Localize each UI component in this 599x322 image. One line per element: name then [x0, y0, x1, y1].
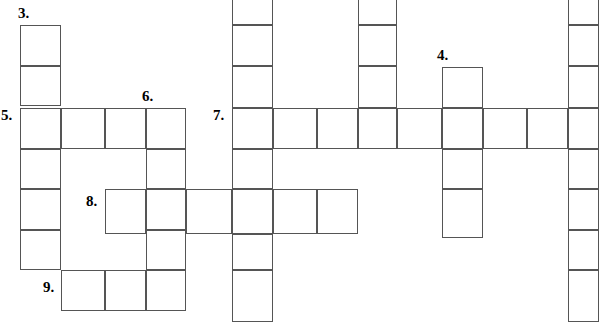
- cell-r3c12[interactable]: [527, 108, 568, 149]
- cell-r5c10[interactable]: [442, 189, 483, 238]
- cell-r2c13[interactable]: [568, 66, 599, 109]
- clue-number-5: 5.: [1, 108, 12, 123]
- cell-r4c13[interactable]: [568, 149, 599, 190]
- cell-r7c2[interactable]: [105, 270, 146, 311]
- cell-r1c5[interactable]: [232, 25, 273, 66]
- cell-r0c5[interactable]: [232, 0, 273, 25]
- cell-r1c0[interactable]: [20, 25, 61, 66]
- cell-r3c0[interactable]: [20, 108, 61, 149]
- cell-r5c4[interactable]: [186, 189, 232, 234]
- cell-r2c8[interactable]: [358, 66, 398, 109]
- cell-r3c10[interactable]: [442, 108, 483, 149]
- clue-number-4: 4.: [437, 48, 448, 63]
- cell-r3c6[interactable]: [273, 108, 318, 149]
- cell-r0c13[interactable]: [568, 0, 599, 25]
- cell-r7c5[interactable]: [232, 270, 273, 322]
- cell-r5c13[interactable]: [568, 189, 599, 230]
- clue-number-3: 3.: [18, 6, 29, 21]
- cell-r2c10[interactable]: [442, 67, 483, 108]
- cell-r3c11[interactable]: [483, 108, 528, 149]
- cell-r3c2[interactable]: [105, 108, 146, 149]
- clue-number-6: 6.: [142, 89, 153, 104]
- cell-r7c13[interactable]: [568, 270, 599, 322]
- cell-r2c0[interactable]: [20, 66, 61, 107]
- cell-r3c9[interactable]: [397, 108, 442, 149]
- cell-r4c10[interactable]: [442, 149, 483, 190]
- cell-r4c0[interactable]: [20, 149, 61, 190]
- cell-r6c3[interactable]: [146, 230, 187, 271]
- cell-r2c5[interactable]: [232, 66, 273, 109]
- cell-r4c5[interactable]: [232, 149, 273, 190]
- clue-number-8: 8.: [86, 194, 97, 209]
- cell-r5c0[interactable]: [20, 189, 61, 230]
- cell-r0c8[interactable]: [358, 0, 398, 25]
- cell-r3c13[interactable]: [568, 108, 599, 149]
- cell-r5c5[interactable]: [232, 189, 273, 234]
- cell-r6c5[interactable]: [232, 234, 273, 271]
- cell-r5c2[interactable]: [105, 189, 146, 234]
- cell-r7c1[interactable]: [61, 270, 106, 311]
- cell-r3c8[interactable]: [358, 108, 398, 149]
- clue-number-7: 7.: [213, 108, 224, 123]
- crossword-grid: 3.4.5.6.7.8.9.: [0, 0, 599, 322]
- cell-r7c3[interactable]: [146, 270, 187, 311]
- cell-r3c7[interactable]: [317, 108, 358, 149]
- cell-r3c5[interactable]: [232, 108, 273, 149]
- cell-r4c3[interactable]: [146, 149, 187, 190]
- cell-r6c0[interactable]: [20, 230, 61, 271]
- cell-r5c3[interactable]: [146, 189, 187, 230]
- cell-r5c6[interactable]: [273, 189, 318, 234]
- clue-number-9: 9.: [43, 280, 54, 295]
- cell-r1c13[interactable]: [568, 25, 599, 66]
- cell-r6c13[interactable]: [568, 230, 599, 271]
- cell-r5c7[interactable]: [317, 189, 358, 234]
- cell-r1c8[interactable]: [358, 25, 398, 66]
- cell-r3c3[interactable]: [146, 108, 187, 149]
- cell-r3c1[interactable]: [61, 108, 106, 149]
